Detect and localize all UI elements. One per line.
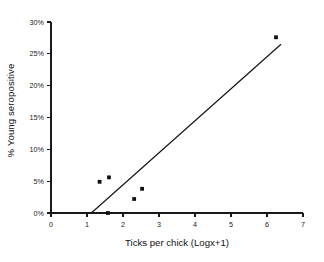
x-tick-label: 2 bbox=[121, 220, 125, 229]
scatter-plot-svg: 01234567 0%5%10%15%20%25%30% Ticks per c… bbox=[0, 0, 324, 262]
y-tick-label: 15% bbox=[30, 113, 45, 122]
y-tick-label: 30% bbox=[30, 18, 45, 27]
x-tick-label: 5 bbox=[229, 220, 233, 229]
x-tick-label: 6 bbox=[265, 220, 269, 229]
regression-line bbox=[91, 44, 281, 213]
data-points-group bbox=[98, 35, 278, 215]
y-tick-label: 5% bbox=[34, 177, 45, 186]
x-tick-label: 3 bbox=[157, 220, 161, 229]
y-tick-label: 20% bbox=[30, 81, 45, 90]
y-axis-ticks: 0%5%10%15%20%25%30% bbox=[30, 18, 51, 218]
y-tick-label: 25% bbox=[30, 49, 45, 58]
data-point bbox=[107, 175, 111, 179]
data-point bbox=[98, 180, 102, 184]
x-tick-label: 1 bbox=[85, 220, 89, 229]
y-tick-label: 0% bbox=[34, 209, 45, 218]
data-point bbox=[106, 211, 110, 215]
trend-line-group bbox=[91, 44, 281, 213]
y-tick-label: 10% bbox=[30, 145, 45, 154]
data-point bbox=[274, 35, 278, 39]
x-axis-ticks: 01234567 bbox=[49, 213, 305, 229]
x-tick-label: 4 bbox=[193, 220, 197, 229]
x-tick-label: 7 bbox=[301, 220, 305, 229]
axes-group bbox=[51, 22, 303, 213]
x-axis-title: Ticks per chick (Logx+1) bbox=[125, 237, 229, 248]
data-point bbox=[132, 197, 136, 201]
data-point bbox=[140, 187, 144, 191]
x-tick-label: 0 bbox=[49, 220, 53, 229]
chart-figure: 01234567 0%5%10%15%20%25%30% Ticks per c… bbox=[0, 0, 324, 262]
